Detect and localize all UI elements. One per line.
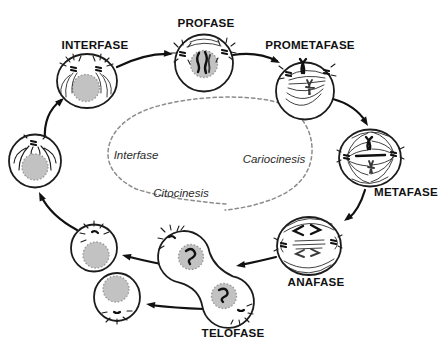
arrow-telofase-to-upper-daughter bbox=[121, 252, 161, 264]
cell-daughter-lower bbox=[94, 273, 140, 324]
condensing-chromosome-light bbox=[209, 55, 210, 72]
centriole-icon bbox=[114, 312, 120, 313]
cell-membrane bbox=[158, 231, 254, 328]
arrow-metafase-to-anafase bbox=[342, 190, 365, 224]
arrow-telofase-to-lower-daughter bbox=[146, 301, 204, 309]
centriole-bottom-icon bbox=[238, 310, 244, 311]
nucleus bbox=[191, 51, 218, 78]
label-interfase: INTERFASE bbox=[62, 38, 129, 51]
label-inner-cariocinesis: Cariocinesis bbox=[243, 153, 306, 165]
cell-telofase bbox=[158, 225, 254, 328]
arrow-prometafase-to-metafase bbox=[333, 99, 371, 128]
arrow-upper-daughter-to-g1 bbox=[36, 191, 77, 230]
label-anafase: ANAFASE bbox=[288, 275, 345, 288]
diagram-canvas: INTERFASE PROFASE PROMETAFASE METAFASE A… bbox=[0, 0, 448, 354]
cell-g1 bbox=[9, 135, 61, 188]
cell-daughter-upper bbox=[71, 221, 117, 272]
cell-interfase bbox=[57, 54, 117, 108]
nucleus bbox=[83, 242, 109, 268]
arrow-interfase-to-profase bbox=[117, 50, 173, 67]
nucleus bbox=[103, 276, 129, 302]
label-metafase: METAFASE bbox=[374, 185, 438, 198]
label-prometafase: PROMETAFASE bbox=[265, 38, 355, 51]
label-telofase: TELOFASE bbox=[202, 326, 265, 339]
nucleus bbox=[22, 154, 48, 180]
arrow-profase-to-prometafase bbox=[233, 54, 281, 66]
nucleus bbox=[73, 75, 100, 102]
arrow-g1-to-interfase bbox=[45, 95, 66, 140]
cell-profase bbox=[171, 35, 236, 92]
label-inner-citocinesis: Citocinesis bbox=[153, 187, 209, 199]
label-profase: PROFASE bbox=[178, 16, 235, 29]
cell-anafase bbox=[274, 217, 342, 275]
cell-prometafase bbox=[276, 59, 336, 120]
arrow-anafase-to-telofase bbox=[235, 257, 276, 269]
cell-membrane bbox=[277, 217, 341, 275]
plate-bar bbox=[356, 155, 385, 156]
label-inner-interfase: Interfase bbox=[114, 149, 159, 161]
cell-metafase bbox=[337, 130, 404, 187]
cell-cycle-diagram: INTERFASE PROFASE PROMETAFASE METAFASE A… bbox=[0, 0, 448, 354]
